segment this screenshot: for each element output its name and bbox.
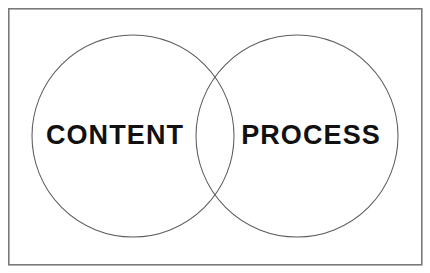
venn-label-process: PROCESS [241,120,381,150]
venn-diagram-svg: CONTENT PROCESS [0,0,430,273]
venn-label-content: CONTENT [46,120,184,150]
venn-diagram-canvas: CONTENT PROCESS [0,0,430,273]
